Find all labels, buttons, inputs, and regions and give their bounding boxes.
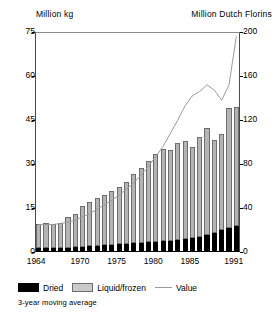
x-axis-tick-label: 1985 <box>180 256 199 266</box>
bar-column <box>183 141 188 252</box>
bar-column <box>175 143 180 252</box>
legend-item-value: Value <box>155 283 197 293</box>
x-axis-tick-label: 1991 <box>224 256 243 266</box>
right-axis-tick-label: 0 <box>243 246 248 256</box>
bar-segment-liquid-frozen <box>168 150 173 241</box>
bar-segment-dried <box>190 238 195 252</box>
bar-segment-dried <box>219 230 224 252</box>
legend-label-value: Value <box>176 283 197 293</box>
bar-segment-dried <box>51 248 56 252</box>
bar-segment-liquid-frozen <box>197 137 202 237</box>
bar-segment-dried <box>36 248 41 252</box>
bar-segment-dried <box>117 244 122 252</box>
bar-segment-dried <box>153 242 158 252</box>
bar-segment-liquid-frozen <box>124 182 129 244</box>
right-axis-tick-label: 120 <box>243 114 257 124</box>
bar-column <box>95 198 100 252</box>
bar-segment-dried <box>197 237 202 252</box>
bar-column <box>131 174 136 252</box>
bar-column <box>102 195 107 252</box>
footnote: 3-year moving average <box>18 298 97 307</box>
bar-column <box>124 182 129 252</box>
bar-segment-dried <box>73 247 78 252</box>
legend-label-liquid: Liquid/frozen <box>97 283 146 293</box>
right-axis-tick-mark <box>240 208 243 209</box>
bar-column <box>80 206 85 252</box>
bar-segment-dried <box>234 226 239 252</box>
value-line-swatch-icon <box>155 283 172 292</box>
chart-container: Million kg Million Dutch Florins 0153045… <box>0 0 276 318</box>
bar-column <box>73 214 78 252</box>
bar-column <box>87 202 92 252</box>
bar-column <box>153 154 158 252</box>
left-axis-tick-label: 30 <box>26 158 35 168</box>
bar-segment-liquid-frozen <box>234 107 239 226</box>
left-axis-tick-label: 15 <box>26 202 35 212</box>
bar-segment-dried <box>161 241 166 252</box>
bar-column <box>204 128 209 252</box>
bar-column <box>65 217 70 252</box>
dried-swatch-icon <box>18 283 39 292</box>
bar-segment-dried <box>43 248 48 252</box>
bar-segment-liquid-frozen <box>43 223 48 248</box>
bar-segment-dried <box>124 244 129 252</box>
bar-segment-dried <box>212 233 217 252</box>
right-axis-tick-mark <box>240 120 243 121</box>
x-axis-tick-label: 1980 <box>144 256 163 266</box>
legend: Dried Liquid/frozen Value <box>18 282 268 293</box>
bar-segment-liquid-frozen <box>204 128 209 235</box>
bar-segment-liquid-frozen <box>109 191 114 245</box>
bar-segment-liquid-frozen <box>212 140 217 233</box>
bar-column <box>212 140 217 252</box>
bar-segment-dried <box>95 246 100 252</box>
bar-column <box>190 147 195 252</box>
bar-column <box>58 223 63 252</box>
bar-segment-dried <box>139 243 144 252</box>
right-axis-title: Million Dutch Florins <box>191 9 272 19</box>
legend-item-dried: Dried <box>18 283 63 293</box>
bar-segment-liquid-frozen <box>183 141 188 239</box>
bar-segment-liquid-frozen <box>95 198 100 246</box>
bar-segment-liquid-frozen <box>87 202 92 246</box>
bar-segment-dried <box>168 241 173 252</box>
bar-column <box>226 108 231 252</box>
right-axis-tick-mark <box>240 76 243 77</box>
legend-item-liquid: Liquid/frozen <box>72 283 146 293</box>
bar-segment-liquid-frozen <box>80 206 85 246</box>
bar-segment-dried <box>58 248 63 252</box>
left-axis-tick-label: 60 <box>26 70 35 80</box>
right-axis-tick-label: 40 <box>243 202 252 212</box>
bar-column <box>109 191 114 252</box>
bar-column <box>234 107 239 252</box>
legend-label-dried: Dried <box>43 283 63 293</box>
bar-segment-liquid-frozen <box>131 174 136 243</box>
bar-segment-liquid-frozen <box>139 168 144 243</box>
right-axis-tick-mark <box>240 32 243 33</box>
bar-segment-dried <box>80 247 85 252</box>
bar-segment-liquid-frozen <box>146 161 151 242</box>
bar-segment-liquid-frozen <box>117 187 122 244</box>
x-axis-tick-label: 1970 <box>71 256 90 266</box>
left-axis-tick-mark <box>32 252 35 253</box>
bar-segment-liquid-frozen <box>36 224 41 248</box>
x-axis-tick-label: 1975 <box>107 256 126 266</box>
bar-column <box>139 168 144 252</box>
bar-segment-liquid-frozen <box>190 147 195 238</box>
bar-segment-dried <box>109 245 114 252</box>
bar-segment-liquid-frozen <box>102 195 107 246</box>
bar-column <box>36 224 41 252</box>
left-axis-tick-label: 75 <box>26 26 35 36</box>
bar-segment-dried <box>204 235 209 252</box>
right-axis-tick-label: 160 <box>243 70 257 80</box>
bar-segment-dried <box>175 240 180 252</box>
right-axis-tick-label: 80 <box>243 158 252 168</box>
bar-segment-liquid-frozen <box>58 223 63 249</box>
bar-column <box>117 187 122 252</box>
bar-segment-liquid-frozen <box>73 214 78 247</box>
liquid-swatch-icon <box>72 283 93 292</box>
bar-column <box>168 150 173 252</box>
bar-segment-dried <box>131 243 136 252</box>
bar-segment-dried <box>183 239 188 252</box>
left-axis-tick-label: 45 <box>26 114 35 124</box>
right-axis-tick-mark <box>240 164 243 165</box>
